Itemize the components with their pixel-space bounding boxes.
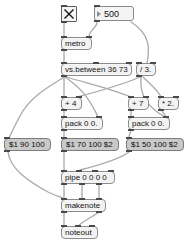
- object-pack-left-label: pack 0 0.: [65, 119, 97, 128]
- toggle-outlet[interactable]: [61, 21, 67, 23]
- pipe-outlet-2[interactable]: [79, 183, 85, 185]
- times-2-outlet[interactable]: [158, 109, 164, 111]
- number-flag-icon: [97, 11, 101, 17]
- object-metro-label: metro: [65, 39, 85, 48]
- divide-inlet-right[interactable]: [150, 62, 156, 64]
- pipe-inlet-2[interactable]: [76, 170, 82, 172]
- pack-left-outlet[interactable]: [61, 129, 67, 131]
- divide-inlet-left[interactable]: [136, 62, 142, 64]
- number-box-value: 500: [104, 9, 119, 19]
- object-pack-right-label: pack 0 0.: [132, 119, 164, 128]
- noteout-inlet-3[interactable]: [89, 225, 95, 227]
- pipe-inlet-4[interactable]: [108, 170, 114, 172]
- message-50-inlet[interactable]: [126, 137, 132, 139]
- object-pipe[interactable]: pipe 0 0 0 0: [61, 171, 115, 184]
- pack-left-inlet-right[interactable]: [96, 116, 102, 118]
- plus-7-inlet-right[interactable]: [143, 96, 149, 98]
- toggle-x-icon: [63, 8, 75, 20]
- makenote-inlet-2[interactable]: [79, 198, 85, 200]
- object-plus-7-label: + 7: [132, 99, 143, 108]
- object-times-2-label: * 2.: [162, 99, 174, 108]
- toggle-inlet[interactable]: [61, 5, 67, 7]
- max-patcher-canvas[interactable]: 500 metro vs.between 36 73 / 3. + 4 + 7 …: [0, 0, 195, 248]
- object-vs-between-label: vs.between 36 73: [65, 65, 128, 74]
- object-noteout-label: noteout: [65, 228, 92, 237]
- metro-outlet[interactable]: [61, 49, 67, 51]
- metro-inlet-left[interactable]: [61, 36, 67, 38]
- object-pack-left[interactable]: pack 0 0.: [61, 117, 103, 130]
- plus-7-outlet[interactable]: [128, 109, 134, 111]
- plus-7-inlet-left[interactable]: [128, 96, 134, 98]
- object-pack-right[interactable]: pack 0 0.: [128, 117, 170, 130]
- pipe-inlet-3[interactable]: [92, 170, 98, 172]
- object-plus-4-label: + 4: [65, 99, 76, 108]
- message-box-90[interactable]: $1 90 100: [4, 138, 51, 151]
- pipe-outlet-3[interactable]: [96, 183, 102, 185]
- pack-left-inlet-left[interactable]: [61, 116, 67, 118]
- pipe-outlet-1[interactable]: [61, 183, 67, 185]
- object-makenote-label: makenote: [65, 201, 100, 210]
- message-box-70[interactable]: $1 70 100 $2: [61, 138, 119, 151]
- makenote-inlet-3[interactable]: [96, 198, 102, 200]
- makenote-outlet-1[interactable]: [61, 211, 67, 213]
- object-divide-label: / 3.: [140, 65, 151, 74]
- message-70-inlet[interactable]: [61, 137, 67, 139]
- noteout-inlet-2[interactable]: [75, 225, 81, 227]
- plus-4-outlet[interactable]: [61, 109, 67, 111]
- message-90-inlet[interactable]: [4, 137, 10, 139]
- pack-right-inlet-right[interactable]: [163, 116, 169, 118]
- makenote-inlet-1[interactable]: [61, 198, 67, 200]
- message-box-90-label: $1 90 100: [9, 140, 45, 149]
- vs-between-inlet-left[interactable]: [61, 62, 67, 64]
- message-box-70-label: $1 70 100 $2: [66, 140, 113, 149]
- toggle-metro-onoff[interactable]: [61, 6, 77, 22]
- divide-outlet[interactable]: [136, 75, 142, 77]
- number-inlet[interactable]: [94, 5, 100, 7]
- plus-4-inlet-left[interactable]: [61, 96, 67, 98]
- times-2-inlet-right[interactable]: [173, 96, 179, 98]
- number-outlet[interactable]: [94, 20, 100, 22]
- message-70-outlet[interactable]: [61, 150, 67, 152]
- message-box-50[interactable]: $1 50 100 $2: [126, 138, 184, 151]
- object-vs-between[interactable]: vs.between 36 73: [61, 63, 132, 76]
- vs-between-outlet[interactable]: [61, 75, 67, 77]
- object-pipe-label: pipe 0 0 0 0: [65, 173, 107, 182]
- vs-between-inlet-mid[interactable]: [93, 62, 99, 64]
- plus-4-inlet-right[interactable]: [76, 96, 82, 98]
- metro-inlet-right[interactable]: [86, 36, 92, 38]
- noteout-inlet-1[interactable]: [61, 225, 67, 227]
- message-50-outlet[interactable]: [126, 150, 132, 152]
- object-noteout[interactable]: noteout: [61, 226, 98, 239]
- vs-between-inlet-right[interactable]: [126, 62, 132, 64]
- times-2-inlet-left[interactable]: [158, 96, 164, 98]
- number-box-interval[interactable]: 500: [94, 6, 134, 21]
- message-90-outlet[interactable]: [4, 150, 10, 152]
- makenote-outlet-2[interactable]: [96, 211, 102, 213]
- pack-right-outlet[interactable]: [128, 129, 134, 131]
- pack-right-inlet-left[interactable]: [128, 116, 134, 118]
- pipe-inlet-1[interactable]: [61, 170, 67, 172]
- message-box-50-label: $1 50 100 $2: [131, 140, 178, 149]
